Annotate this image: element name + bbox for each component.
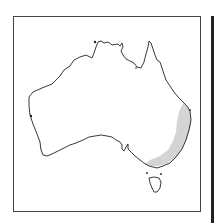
australia-outline bbox=[29, 41, 191, 168]
australia-map bbox=[0, 0, 214, 223]
island-dot bbox=[135, 67, 137, 69]
island-dot bbox=[189, 109, 191, 111]
island-dot bbox=[94, 41, 96, 43]
island-dot bbox=[160, 173, 162, 175]
island-dot bbox=[146, 172, 148, 174]
island-dot bbox=[30, 115, 32, 117]
tasmania-outline bbox=[149, 177, 161, 192]
distribution-range bbox=[145, 103, 191, 166]
